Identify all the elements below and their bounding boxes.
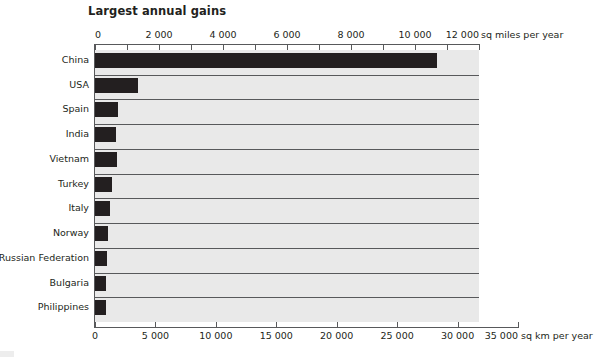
x-axis-bottom-rule — [95, 327, 518, 328]
x-axis-bottom-tick-label: 30 000 — [441, 330, 474, 341]
bar-category-label: Philippines — [38, 301, 89, 312]
x-axis-bottom-unit-label: sq km per year — [521, 330, 593, 341]
x-axis-bottom-tick-label: 0 — [92, 330, 98, 341]
page-edge-strip — [0, 351, 14, 357]
bar-category-label: Vietnam — [49, 153, 89, 164]
bar-row: Spain — [0, 99, 615, 124]
x-axis-top-tick-label: 10 000 — [398, 29, 431, 40]
bar-category-label: Italy — [68, 202, 89, 213]
x-axis-bottom-tick — [276, 322, 277, 328]
x-axis-bottom-tick — [337, 322, 338, 328]
x-axis-bottom-tick — [95, 322, 96, 328]
bar-row: China — [0, 50, 615, 75]
bar-row: Turkey — [0, 174, 615, 199]
x-axis-bottom-tick-label: 20 000 — [320, 330, 353, 341]
x-axis-bottom: 05 00010 00015 00020 00025 00030 00035 0… — [95, 322, 518, 328]
x-axis-bottom-tick — [216, 322, 217, 328]
x-axis-bottom-tick-label: 5 000 — [142, 330, 169, 341]
x-axis-top-tick-label: 8 000 — [337, 29, 364, 40]
bar-row: Italy — [0, 198, 615, 223]
bar — [95, 102, 118, 117]
bar — [95, 276, 106, 291]
bar-category-label: Spain — [62, 103, 89, 114]
x-axis-top-unit-label: sq miles per year — [481, 29, 563, 40]
bar — [95, 53, 437, 68]
bar — [95, 127, 116, 142]
bar-row: Bulgaria — [0, 273, 615, 298]
bar-row: Philippines — [0, 297, 615, 322]
bar — [95, 251, 107, 266]
x-axis-top-tick-label: 2 000 — [145, 29, 172, 40]
chart-container: Largest annual gains 02 0004 0006 0008 0… — [0, 0, 615, 357]
x-axis-top-tick-label: 0 — [95, 29, 101, 40]
bar — [95, 78, 138, 93]
bar-row: Norway — [0, 223, 615, 248]
x-axis-bottom-tick — [155, 322, 156, 328]
x-axis-bottom-tick-label: 25 000 — [381, 330, 414, 341]
bar-category-label: Bulgaria — [50, 277, 89, 288]
bar-category-label: USA — [69, 79, 89, 90]
x-axis-bottom-tick-label: 15 000 — [260, 330, 293, 341]
bar-category-label: China — [62, 54, 89, 65]
x-axis-top-tick-label: 4 000 — [209, 29, 236, 40]
bar-row: Russian Federation — [0, 248, 615, 273]
x-axis-bottom-tick-label: 10 000 — [199, 330, 232, 341]
x-axis-top-tick-label: 6 000 — [273, 29, 300, 40]
bar-row: USA — [0, 75, 615, 100]
x-axis-bottom-tick — [458, 322, 459, 328]
x-axis-top-tick-label: 12 000 — [446, 29, 479, 40]
bar — [95, 226, 108, 241]
bar-category-label: India — [66, 128, 89, 139]
bar — [95, 300, 106, 315]
x-axis-bottom-tick-label: 35 000 — [485, 330, 518, 341]
bar — [95, 152, 117, 167]
bar-row: India — [0, 124, 615, 149]
x-axis-bottom-tick — [397, 322, 398, 328]
chart-title: Largest annual gains — [88, 4, 226, 18]
bar-category-label: Turkey — [58, 178, 89, 189]
bar-category-label: Norway — [53, 227, 89, 238]
bar-row: Vietnam — [0, 149, 615, 174]
bar — [95, 201, 110, 216]
bar-category-label: Russian Federation — [0, 252, 89, 263]
x-axis-bottom-tick — [518, 322, 519, 328]
bar — [95, 177, 112, 192]
